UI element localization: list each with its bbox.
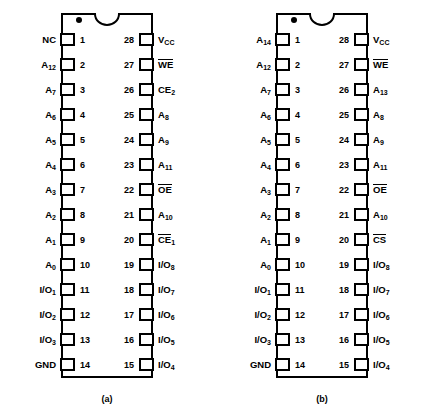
pin-number: 23 — [124, 160, 134, 169]
pin-pad — [275, 133, 290, 146]
pin-pad — [139, 333, 154, 346]
pin-signal-label: I/O2 — [39, 310, 56, 320]
pin-number: 13 — [295, 335, 305, 344]
pin-row: GND1415I/O4 — [0, 352, 214, 377]
pin-pad — [139, 258, 154, 271]
pin-row: A6425A8 — [0, 102, 214, 127]
pin-pad — [354, 158, 369, 171]
pin-1: A14 — [215, 27, 290, 52]
pin-pad — [275, 83, 290, 96]
pin-17: I/O6 — [354, 302, 429, 327]
pin-pad — [275, 308, 290, 321]
pin-signal-label: A14 — [256, 35, 271, 45]
pin-number: 6 — [80, 160, 85, 169]
pin-row: I/O21217I/O6 — [215, 302, 429, 327]
pin-16: I/O5 — [354, 327, 429, 352]
pin-4: A6 — [215, 102, 290, 127]
pin-number: 9 — [295, 235, 300, 244]
pin-row: A12227WE — [215, 52, 429, 77]
pin-signal-label: GND — [35, 360, 56, 370]
pin-row: A5524A9 — [215, 127, 429, 152]
pin-signal-label: A1 — [260, 235, 271, 245]
pin-row: I/O21217I/O6 — [0, 302, 214, 327]
pin-pad — [354, 333, 369, 346]
pin-pad — [354, 183, 369, 196]
pin-number: 12 — [295, 310, 305, 319]
pin-10: A0 — [215, 252, 290, 277]
pin-pad — [139, 58, 154, 71]
pin-signal-label: A5 — [260, 135, 271, 145]
pin-number: 7 — [295, 185, 300, 194]
pin-pad — [354, 358, 369, 371]
pin-signal-label: I/O5 — [373, 335, 390, 345]
pin-row: A1920CE1 — [0, 227, 214, 252]
pin-number: 13 — [80, 335, 90, 344]
pin-number: 19 — [124, 260, 134, 269]
pin-number: 21 — [339, 210, 349, 219]
pin-number: 15 — [339, 360, 349, 369]
pin-number: 27 — [124, 60, 134, 69]
pin-row: I/O31316I/O5 — [0, 327, 214, 352]
pin-number: 11 — [295, 285, 305, 294]
pin-number: 18 — [339, 285, 349, 294]
pin-signal-label: CE2 — [158, 85, 175, 95]
pin-pad — [275, 283, 290, 296]
pin-signal-label: A7 — [45, 85, 56, 95]
pin-9: A1 — [0, 227, 75, 252]
pin-number: 20 — [124, 235, 134, 244]
package-notch — [276, 13, 368, 27]
pin-28: VCC — [139, 27, 214, 52]
pin-pad — [60, 258, 75, 271]
pin-number: 17 — [124, 310, 134, 319]
pin-pad — [275, 33, 290, 46]
pin-24: A9 — [354, 127, 429, 152]
pin-11: I/O1 — [215, 277, 290, 302]
pin-number: 14 — [80, 360, 90, 369]
pin-10: A0 — [0, 252, 75, 277]
pin-number: 9 — [80, 235, 85, 244]
pin-pad — [60, 158, 75, 171]
pin-pad — [139, 308, 154, 321]
package-notch — [61, 13, 153, 27]
pin-pad — [354, 258, 369, 271]
pin-pad — [275, 358, 290, 371]
pin-22: OE — [354, 177, 429, 202]
pin1-indicator-dot — [76, 17, 82, 23]
pin-25: A8 — [139, 102, 214, 127]
pin-row: A7326A13 — [215, 77, 429, 102]
pin-13: I/O3 — [0, 327, 75, 352]
pin-row: I/O11118I/O7 — [215, 277, 429, 302]
pin-signal-label: VCC — [373, 35, 389, 45]
pin-1: NC — [0, 27, 75, 52]
pin-signal-label: VCC — [158, 35, 174, 45]
pin-number: 11 — [80, 285, 90, 294]
pin-pad — [139, 158, 154, 171]
pin-signal-label: A10 — [158, 210, 173, 220]
pin-pad — [275, 333, 290, 346]
pin-number: 4 — [295, 110, 300, 119]
pin-4: A6 — [0, 102, 75, 127]
pin-pad — [60, 183, 75, 196]
pin-signal-label: CE1 — [158, 234, 175, 245]
pin-row: A3722OE — [0, 177, 214, 202]
pin-signal-label: I/O2 — [254, 310, 271, 320]
pin-15: I/O4 — [354, 352, 429, 377]
pin-pad — [139, 208, 154, 221]
pin-row: I/O11118I/O7 — [0, 277, 214, 302]
pin-number: 21 — [124, 210, 134, 219]
pin-pad — [139, 83, 154, 96]
pin-number: 23 — [339, 160, 349, 169]
pin-number: 5 — [80, 135, 85, 144]
pin-number: 4 — [80, 110, 85, 119]
pin-pad — [139, 233, 154, 246]
pin-number: 12 — [80, 310, 90, 319]
pin-6: A4 — [215, 152, 290, 177]
pin-row: A2821A10 — [0, 202, 214, 227]
pin-signal-label: WE — [158, 59, 173, 70]
pin-8: A2 — [215, 202, 290, 227]
pin-18: I/O7 — [139, 277, 214, 302]
pin-pad — [60, 133, 75, 146]
pin-signal-label: OE — [158, 184, 172, 195]
pin-pad — [60, 108, 75, 121]
pin-signal-label: I/O8 — [158, 260, 175, 270]
